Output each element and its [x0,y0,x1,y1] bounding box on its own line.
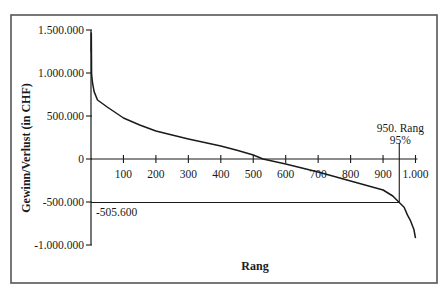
y-tick-label: 1.000.000 [38,67,84,79]
x-tick-label: 600 [277,168,295,180]
chart: Gewinn/Verlust (in CHF) Rang 1.500.0001.… [0,0,446,296]
data-curve [91,33,415,238]
reference-value-label: -505.600 [96,206,137,218]
y-axis-ticks: 1.500.0001.000.000500.0000-500.000-1.000… [34,24,92,251]
x-tick-label: 200 [147,168,165,180]
y-tick-label: 1.500.000 [38,24,84,36]
x-tick-label: 100 [115,168,133,180]
y-tick-label: -500.000 [43,196,84,208]
axes [91,30,418,245]
y-axis-label: Gewinn/Verlust (in CHF) [19,83,33,213]
y-tick-label: -1.000.000 [34,239,84,251]
percent-annotation-label: 95% [390,134,412,146]
y-tick-label: 500.000 [47,110,85,122]
x-tick-label: 800 [342,168,360,180]
y-tick-label: 0 [78,153,84,165]
x-tick-label: 500 [245,168,263,180]
x-tick-label: 400 [212,168,230,180]
x-tick-label: 900 [374,168,392,180]
x-axis-label: Rang [241,259,268,273]
x-tick-label: 300 [180,168,198,180]
x-tick-label: 1.000 [403,168,429,180]
